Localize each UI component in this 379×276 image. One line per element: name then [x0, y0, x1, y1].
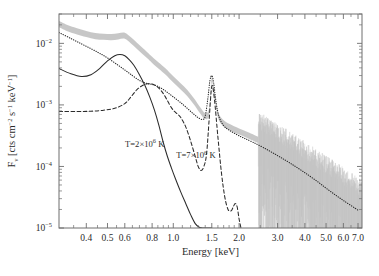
y-tick-label: 10−4 [36, 160, 53, 172]
x-tick-label: 0.4 [80, 233, 92, 243]
x-tick-label: 4.0 [299, 233, 311, 243]
y-axis-title: Fν [cts cm−2 s−1 keV−1] [6, 75, 19, 168]
x-tick-label: 6.0 [337, 233, 349, 243]
noise-spikes [258, 114, 362, 228]
x-tick-label: 5.0 [320, 233, 332, 243]
annotations-layer: T=2×106 KT=7×106 K [125, 137, 216, 160]
hot-component-label: T=7×106 K [176, 149, 216, 160]
y-tick-label: 10−5 [36, 221, 52, 233]
series-observed-spectrum-band [59, 21, 362, 228]
x-tick-label: 0.6 [119, 233, 131, 243]
x-tick-label: 2.0 [233, 233, 245, 243]
y-tick-label: 10−2 [36, 37, 52, 49]
x-tick-label: 0.5 [102, 233, 114, 243]
spectrum-chart-svg: 0.40.50.60.81.01.52.03.04.05.06.07.010−2… [0, 0, 379, 276]
spectrum-figure: 0.40.50.60.81.01.52.03.04.05.06.07.010−2… [0, 0, 379, 276]
y-tick-label: 10−3 [36, 98, 52, 110]
x-tick-label: 1.0 [167, 233, 179, 243]
data-series-layer [59, 21, 362, 228]
x-tick-label: 1.5 [206, 233, 218, 243]
x-tick-label: 7.0 [352, 233, 364, 243]
x-tick-label: 0.8 [146, 233, 158, 243]
x-tick-label: 3.0 [272, 233, 284, 243]
cool-component-label: T=2×106 K [125, 137, 165, 148]
plot-area: 0.40.50.60.81.01.52.03.04.05.06.07.010−2… [6, 14, 365, 257]
x-axis-title: Energy [keV] [182, 246, 239, 257]
